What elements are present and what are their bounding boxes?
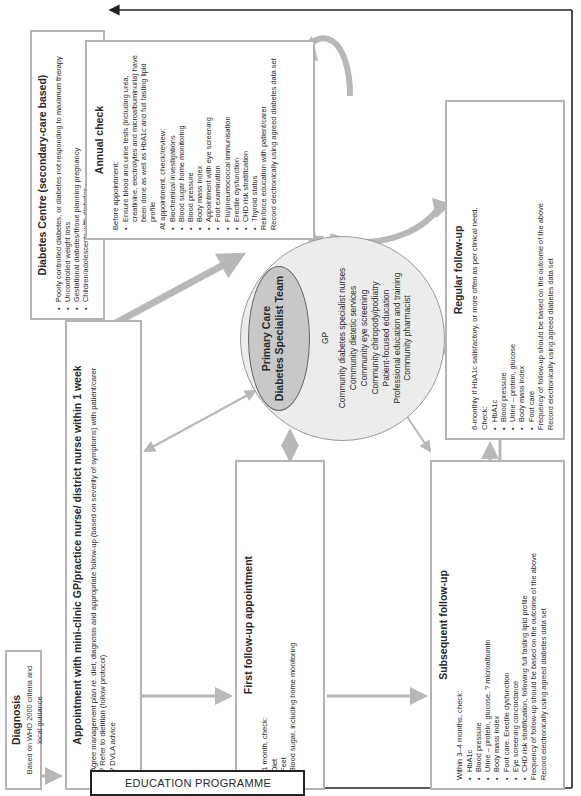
team-member: Community diabetes specialist nurses — [337, 242, 348, 434]
team-title-line2: Diabetes Specialist Team — [273, 266, 286, 411]
diabetes-centre-item: Poorly controlled diabetes, or diabetes … — [54, 40, 63, 310]
diabetes-centre-item: Uncontrolled weight loss — [63, 40, 72, 310]
appointment-list: Agree management plan re. diet, diagnosi… — [89, 330, 117, 780]
annual-before-item: Ensure blood and urine tests (including … — [121, 50, 158, 230]
diabetes-centre-item: Gestational diabetes/those planning preg… — [72, 40, 81, 310]
first-followup-title: First follow-up appointment — [242, 470, 256, 780]
annual-footer: Reinforce education with patient/carer — [259, 50, 269, 230]
first-item: Blood sugar, including home monitoring — [288, 470, 297, 780]
subsequent-followup-title: Subsequent follow-up — [437, 470, 451, 780]
team-title-line1: Primary Care — [260, 266, 273, 411]
appointment-item: ? DVLA advice — [108, 330, 117, 780]
subsequent-footer: Frequency of follow-up should be based o… — [529, 470, 539, 780]
subsequent-item: Foot care. Erectile dysfunction — [502, 470, 511, 780]
appointment-box: Appointment with mini-clinic GP/practice… — [65, 320, 142, 790]
education-programme-box: EDUCATION PROGRAMME — [90, 770, 305, 796]
regular-item: Blood pressure — [499, 110, 508, 430]
team-member: Community eye screening — [359, 242, 370, 434]
annual-check-item: Blood pressure — [186, 50, 195, 230]
annual-check-item: Biochemical investigations — [168, 50, 177, 230]
education-programme-label: EDUCATION PROGRAMME — [124, 777, 270, 789]
regular-followup-box: Regular follow-up 6-monthly if HbA1c sat… — [445, 100, 565, 440]
regular-followup-title: Regular follow-up — [452, 110, 466, 430]
team-member: Community dietetic services — [348, 242, 359, 434]
diagnosis-subtitle: Based on WHO 2000 criteria and local gui… — [25, 658, 45, 782]
subsequent-item: CHD risk stratification, following full … — [520, 470, 529, 780]
first-intro: At 1 month, check: — [260, 470, 270, 780]
annual-check-box: Annual check Before appointment: Ensure … — [85, 40, 315, 240]
annual-check-item: Body mass index — [195, 50, 204, 230]
regular-item: Body mass index — [517, 110, 526, 430]
team-ellipse-label: Primary Care Diabetes Specialist Team — [260, 266, 286, 411]
annual-before-label: Before appointment: — [111, 50, 121, 230]
subsequent-followup-box: Subsequent follow-up Within 3–4 months, … — [430, 460, 565, 790]
first-followup-box: First follow-up appointment At 1 month, … — [235, 460, 325, 790]
subsequent-item: Body mass index — [492, 470, 501, 780]
first-list: Diet Feet Blood sugar, including home mo… — [270, 470, 298, 780]
diagnosis-box: Diagnosis Based on WHO 2000 criteria and… — [5, 650, 42, 790]
subsequent-item: Eye screening concordance — [511, 470, 520, 780]
annual-check-list: Biochemical investigations Blood sugar h… — [168, 50, 260, 230]
annual-at-label: At appointment, check/review: — [158, 50, 168, 230]
subsequent-item: HbA1c — [465, 470, 474, 780]
annual-check-item: Blood sugar home monitoring — [177, 50, 186, 230]
appointment-title: Appointment with mini-clinic GP/practice… — [71, 330, 85, 780]
annual-footer: Record electronically using agreed diabe… — [269, 50, 279, 230]
annual-check-title: Annual check — [93, 50, 107, 230]
annual-check-item: Appointment with eye screening — [204, 50, 213, 230]
regular-footer: Record electronically using agreed diabe… — [546, 110, 556, 430]
subsequent-footer: Record electronically using agreed diabe… — [539, 470, 549, 780]
team-member: Professional education and training — [392, 242, 403, 434]
regular-item: Foot care — [527, 110, 536, 430]
annual-check-item: Thyroid status — [250, 50, 259, 230]
diagnosis-title: Diagnosis — [10, 658, 24, 782]
appointment-item: ? Refer to dietitian (follow protocol) — [98, 330, 107, 780]
annual-check-item: Erectile dysfunction — [232, 50, 241, 230]
annual-check-item: Flu/pneumococcal immunisation — [223, 50, 232, 230]
regular-item: HbA1c — [490, 110, 499, 430]
diabetes-centre-title: Diabetes Centre (secondary-care based) — [36, 40, 50, 310]
appointment-item: Agree management plan re. diet, diagnosi… — [89, 330, 98, 780]
regular-item: Urine – protein, glucose — [508, 110, 517, 430]
subsequent-list: HbA1c Blood pressure Urine – protein, gl… — [465, 470, 529, 780]
team-member: GP — [320, 242, 331, 434]
team-member: Community pharmacist — [402, 242, 413, 434]
subsequent-intro: Within 3–4 months, check: — [455, 470, 465, 780]
subsequent-item: Urine – protein, glucose, ? microalbumin — [483, 470, 492, 780]
team-member: Patient-focused education — [381, 242, 392, 434]
first-item: Feet — [279, 470, 288, 780]
annual-check-item: Foot examination — [213, 50, 222, 230]
team-member: Community chiropody/podiatry — [370, 242, 381, 434]
regular-list: HbA1c Blood pressure Urine – protein, gl… — [490, 110, 536, 430]
regular-check-label: Check: — [480, 110, 490, 430]
subsequent-item: Blood pressure — [474, 470, 483, 780]
regular-footer: Frequency of follow-up should be based o… — [536, 110, 546, 430]
first-item: Diet — [270, 470, 279, 780]
team-members: GP Community diabetes specialist nurses … — [320, 242, 413, 434]
regular-intro: 6-monthly if HbA1c satisfactory, or more… — [470, 110, 480, 430]
diabetes-care-flowchart: Diagnosis Based on WHO 2000 criteria and… — [0, 0, 581, 796]
annual-before-list: Ensure blood and urine tests (including … — [121, 50, 158, 230]
annual-check-item: CHD risk stratification — [241, 50, 250, 230]
